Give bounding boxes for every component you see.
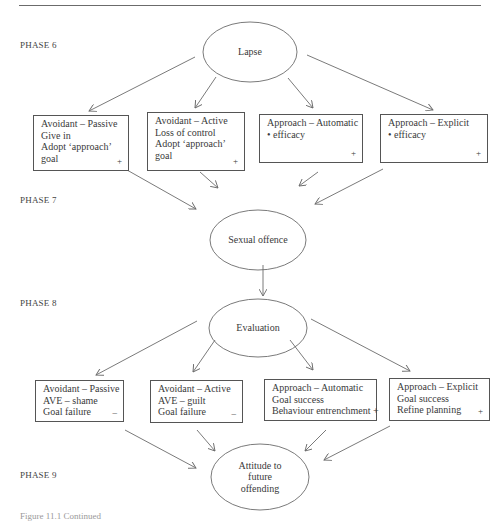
- lapse-node: Lapse: [203, 22, 297, 82]
- box-line: Behaviour entrenchment +: [272, 405, 371, 417]
- box-line: Goal failure: [158, 406, 237, 418]
- box-line: Approach – Automatic: [267, 117, 357, 129]
- attitude-label-line-1: Attitude to: [238, 460, 281, 472]
- sexual-offence-node: Sexual offence: [210, 210, 306, 270]
- phase6-box-avoidant-active: Avoidant – Active Loss of control Adopt …: [147, 112, 245, 171]
- box-line: Approach – Explicit: [388, 117, 482, 129]
- box-line: Goal failure: [43, 406, 118, 418]
- valence-sign: –: [113, 407, 118, 419]
- box-line: goal: [155, 150, 239, 162]
- box-line: Goal success: [272, 394, 371, 406]
- phase6-box-approach-explicit: Approach – Explicit • efficacy +: [380, 114, 488, 163]
- box-line: Loss of control: [155, 127, 239, 139]
- sexual-offence-label: Sexual offence: [228, 234, 288, 246]
- box-line: Goal success: [397, 393, 484, 405]
- figure-caption: Figure 11.1 Continued: [20, 511, 101, 521]
- valence-sign: +: [233, 156, 238, 168]
- valence-sign: +: [476, 148, 481, 160]
- phase8-box-approach-automatic: Approach – Automatic Goal success Behavi…: [264, 379, 377, 421]
- box-line: Refine planning: [397, 404, 484, 416]
- phase-7-label: PHASE 7: [20, 195, 57, 205]
- valence-sign: +: [117, 156, 122, 168]
- evaluation-label: Evaluation: [236, 322, 279, 334]
- box-line: Avoidant – Active: [158, 383, 237, 395]
- lapse-label: Lapse: [238, 46, 262, 58]
- phase-8-label: PHASE 8: [20, 298, 57, 308]
- attitude-label-line-3: offending: [241, 483, 280, 495]
- box-line: • efficacy: [267, 129, 357, 141]
- phase-6-label: PHASE 6: [20, 40, 57, 50]
- box-line: Avoidant – Active: [155, 115, 239, 127]
- box-line: Approach – Explicit: [397, 381, 484, 393]
- phase-9-label: PHASE 9: [20, 470, 57, 480]
- phase8-box-avoidant-passive: Avoidant – Passive AVE – shame Goal fail…: [35, 380, 124, 422]
- evaluation-node: Evaluation: [209, 299, 307, 357]
- box-line: Adopt ‘approach’: [155, 138, 239, 150]
- phase8-box-avoidant-active: Avoidant – Active AVE – guilt Goal failu…: [150, 380, 243, 423]
- valence-sign: +: [478, 406, 483, 418]
- phase8-box-approach-explicit: Approach – Explicit Goal success Refine …: [389, 378, 490, 421]
- box-line: goal: [41, 153, 123, 165]
- attitude-node: Attitude to future offending: [211, 444, 309, 510]
- phase6-box-avoidant-passive: Avoidant – Passive Give in Adopt ‘approa…: [33, 115, 129, 171]
- box-line: AVE – guilt: [158, 395, 237, 407]
- box-line: Avoidant – Passive: [43, 383, 118, 395]
- box-line: Give in: [41, 130, 123, 142]
- box-line: • efficacy: [388, 129, 482, 141]
- valence-sign: –: [232, 408, 237, 420]
- box-line: Avoidant – Passive: [41, 118, 123, 130]
- valence-sign: +: [351, 148, 356, 160]
- box-line: Adopt ‘approach’: [41, 141, 123, 153]
- phase6-box-approach-automatic: Approach – Automatic • efficacy +: [259, 114, 363, 163]
- box-line: AVE – shame: [43, 395, 118, 407]
- box-line: Approach – Automatic: [272, 382, 371, 394]
- attitude-label-line-2: future: [248, 471, 272, 483]
